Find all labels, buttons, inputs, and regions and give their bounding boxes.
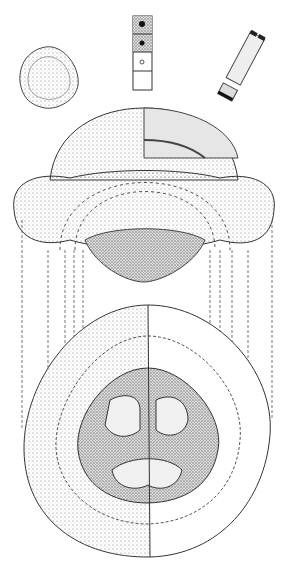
- side-view: [14, 108, 275, 282]
- rod-detail: [218, 30, 266, 101]
- pollen-illustration: [0, 0, 288, 574]
- polar-section-view: [24, 305, 270, 557]
- wall-strip-detail: [133, 16, 152, 90]
- small-grain-view: [20, 47, 78, 109]
